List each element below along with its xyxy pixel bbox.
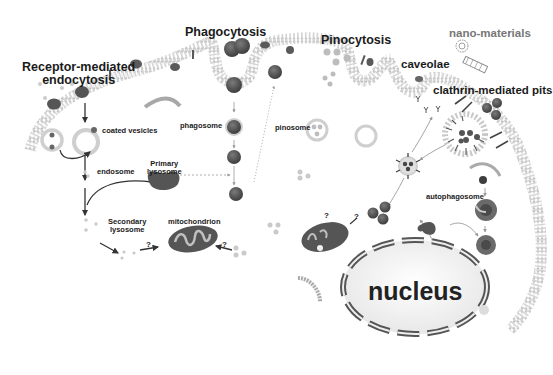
- empty-vesicle: [356, 126, 376, 146]
- label-secondary-lysosome: Secondary lysosome: [108, 218, 146, 234]
- mitochondrion-right: [298, 217, 352, 256]
- clathrin-coated-vesicle: [445, 114, 485, 155]
- er-fragment: [298, 278, 320, 302]
- label-endosome: endosome: [97, 168, 135, 176]
- label-nucleus: nucleus: [368, 278, 462, 304]
- mitochondrion-left: [166, 222, 220, 256]
- y-receptors: [416, 96, 440, 113]
- caveolae-protein: [415, 76, 423, 82]
- phagocytosis-arrows: [180, 86, 274, 185]
- pinosome-cargo: [312, 125, 323, 137]
- lysosome-right: [418, 222, 436, 235]
- label-autophagosome: autophagosome: [426, 193, 484, 201]
- nanomaterial-icons: [456, 40, 488, 73]
- label-pinocytosis: Pinocytosis: [321, 34, 391, 47]
- label-pinosome: pinosome: [275, 124, 310, 132]
- label-mitochondrion: mitochondrion: [168, 218, 221, 226]
- cytoplasm-particles: [368, 202, 391, 225]
- label-phagosome: phagosome: [180, 122, 222, 130]
- label-coated-vesicles: coated vesicles: [102, 127, 157, 135]
- question-mark-1: ?: [146, 240, 151, 249]
- golgi-icon: [145, 99, 180, 107]
- question-mark-3: ?: [324, 211, 329, 220]
- question-mark-2: ?: [222, 240, 227, 249]
- debris: [479, 305, 489, 315]
- label-nano-materials: nano-materials: [449, 27, 531, 39]
- label-receptor-mediated-endocytosis: Receptor-mediated endocytosis: [22, 61, 135, 87]
- label-clathrin-mediated-pits: clathrin-mediated pits: [433, 84, 553, 96]
- label-primary-lysosome: Primary lysosome: [147, 160, 182, 176]
- label-phagocytosis: Phagocytosis: [185, 26, 266, 39]
- label-caveolae: caveolae: [401, 58, 450, 70]
- label-line-2: endocytosis: [42, 73, 115, 87]
- label-line-1: Receptor-mediated: [22, 60, 135, 74]
- label-lysosome-2: lysosome: [110, 225, 145, 234]
- label-lysosome: lysosome: [147, 167, 182, 176]
- spiked-endosome: [396, 153, 420, 179]
- question-mark-4: ?: [354, 212, 359, 221]
- autophagosome-bottom: [476, 235, 496, 255]
